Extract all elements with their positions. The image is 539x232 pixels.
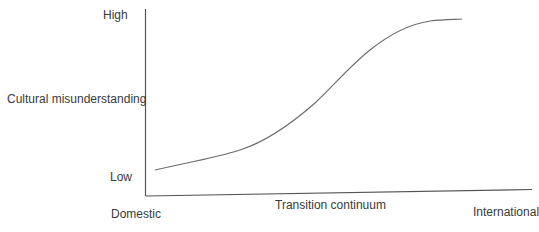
x-axis-end-label: International <box>473 205 539 219</box>
y-axis-high-label: High <box>103 8 128 22</box>
x-axis-start-label: Domestic <box>111 207 161 221</box>
y-axis-title: Cultural misunderstanding <box>7 92 146 106</box>
x-axis-line <box>146 190 532 197</box>
x-axis-title: Transition continuum <box>275 198 386 212</box>
chart-canvas <box>0 0 539 232</box>
y-axis-low-label: Low <box>110 170 132 184</box>
s-curve-line <box>155 19 462 170</box>
